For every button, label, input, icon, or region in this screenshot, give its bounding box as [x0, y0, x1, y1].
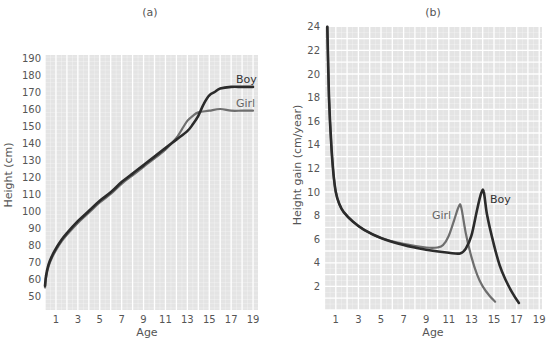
x-tick-label: 7	[118, 314, 124, 325]
y-tick-label: 22	[307, 45, 320, 56]
x-tick-label: 19	[247, 314, 260, 325]
height-gain-chart: (b) 24681012141618202224 135791113151719…	[291, 6, 546, 339]
x-tick-label: 1	[333, 314, 339, 325]
y-tick-label: 100	[22, 206, 41, 217]
x-tick-label: 9	[423, 314, 429, 325]
x-tick-label: 17	[510, 314, 523, 325]
y-tick-label: 90	[28, 223, 41, 234]
x-tick-label: 5	[378, 314, 384, 325]
chart-b-label-girl: Girl	[432, 209, 451, 222]
x-tick-label: 7	[400, 314, 406, 325]
y-tick-label: 14	[307, 139, 320, 150]
y-tick-label: 20	[307, 69, 320, 80]
y-tick-label: 12	[307, 163, 320, 174]
x-tick-label: 15	[203, 314, 216, 325]
y-tick-label: 130	[22, 155, 41, 166]
y-tick-label: 6	[314, 234, 320, 245]
y-tick-label: 120	[22, 172, 41, 183]
chart-a-y-label: Height (cm)	[2, 142, 15, 207]
y-tick-label: 60	[28, 274, 41, 285]
chart-a-label-boy: Boy	[236, 73, 257, 86]
y-tick-label: 160	[22, 104, 41, 115]
x-tick-label: 3	[75, 314, 81, 325]
y-tick-label: 4	[314, 257, 320, 268]
y-tick-label: 110	[22, 189, 41, 200]
chart-a-x-label: Age	[136, 326, 158, 339]
x-tick-label: 17	[225, 314, 238, 325]
x-tick-label: 1	[53, 314, 59, 325]
y-tick-label: 24	[307, 21, 320, 32]
y-tick-label: 190	[22, 53, 41, 64]
growth-charts: (a) 506070809010011012013014015016017018…	[0, 0, 551, 343]
x-tick-label: 15	[488, 314, 501, 325]
x-tick-label: 19	[533, 314, 546, 325]
y-tick-label: 50	[28, 291, 41, 302]
y-tick-label: 10	[307, 187, 320, 198]
y-tick-label: 80	[28, 240, 41, 251]
chart-b-y-ticks: 24681012141618202224	[307, 21, 320, 292]
x-tick-label: 13	[465, 314, 478, 325]
chart-a-x-ticks: 135791113151719	[53, 314, 260, 325]
chart-b-label-boy: Boy	[490, 193, 511, 206]
x-tick-label: 5	[97, 314, 103, 325]
chart-b-title: (b)	[425, 6, 441, 19]
chart-b-x-label: Age	[422, 326, 444, 339]
y-tick-label: 170	[22, 87, 41, 98]
y-tick-label: 2	[314, 281, 320, 292]
chart-a-plot-area	[45, 55, 258, 310]
y-tick-label: 70	[28, 257, 41, 268]
y-tick-label: 16	[307, 116, 320, 127]
y-tick-label: 18	[307, 92, 320, 103]
y-tick-label: 150	[22, 121, 41, 132]
x-tick-label: 11	[442, 314, 455, 325]
chart-b-x-ticks: 135791113151719	[333, 314, 546, 325]
y-tick-label: 180	[22, 70, 41, 81]
chart-b-y-label: Height gain (cm/year)	[291, 105, 304, 226]
x-tick-label: 13	[181, 314, 194, 325]
chart-a-y-ticks: 5060708090100110120130140150160170180190	[22, 53, 41, 302]
chart-a-label-girl: Girl	[236, 97, 255, 110]
x-tick-label: 11	[159, 314, 172, 325]
chart-a-title: (a)	[142, 6, 157, 19]
y-tick-label: 140	[22, 138, 41, 149]
x-tick-label: 3	[355, 314, 361, 325]
height-chart: (a) 506070809010011012013014015016017018…	[2, 6, 259, 339]
y-tick-label: 8	[314, 210, 320, 221]
x-tick-label: 9	[140, 314, 146, 325]
